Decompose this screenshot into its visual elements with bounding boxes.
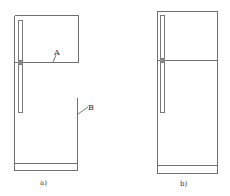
- panel-b: b): [158, 12, 218, 189]
- panel-a: A B a): [15, 16, 95, 188]
- lower-handle: [19, 65, 23, 113]
- caption-a: a): [40, 179, 47, 187]
- lower-handle: [161, 63, 165, 113]
- upper-handle: [19, 21, 23, 61]
- label-b: B: [88, 103, 94, 112]
- outer-body: [158, 12, 218, 174]
- label-a: A: [53, 48, 60, 57]
- hinge-knob: [18, 61, 23, 64]
- caption-b: b): [180, 180, 187, 188]
- label-b-leader: [78, 107, 88, 114]
- hinge-knob: [160, 59, 165, 62]
- figure-canvas: A B a) b): [0, 0, 230, 196]
- upper-handle: [161, 16, 165, 59]
